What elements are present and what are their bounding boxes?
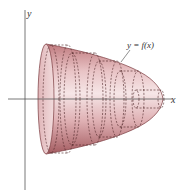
- x-axis-label: x: [171, 94, 175, 105]
- y-axis-label: y: [27, 8, 31, 19]
- curve-label-leader: [121, 50, 130, 62]
- curve-label: y = f(x): [127, 40, 154, 50]
- solid-of-revolution-diagram: [0, 0, 186, 196]
